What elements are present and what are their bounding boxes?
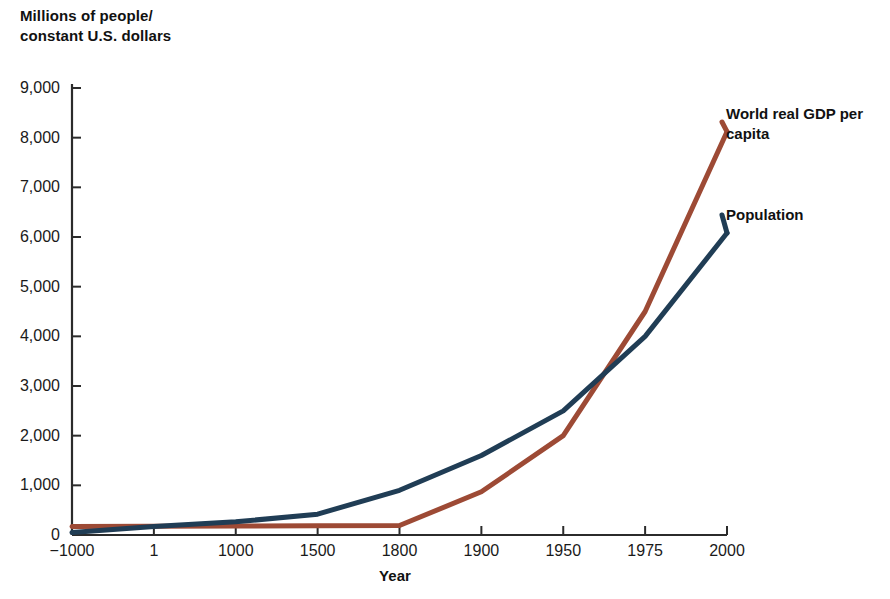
x-axis-tick-label: 1900 — [464, 542, 500, 560]
chart-container: Millions of people/ constant U.S. dollar… — [0, 0, 890, 599]
series-lines — [72, 122, 727, 533]
y-axis-tick-label: 5,000 — [0, 278, 60, 296]
y-axis-tick-label: 1,000 — [0, 476, 60, 494]
series-label-world-real-gdp-per-capita: World real GDP per capita — [726, 104, 886, 144]
y-axis-tick-label: 8,000 — [0, 129, 60, 147]
x-axis-title: Year — [0, 566, 790, 586]
x-axis-tick-label: 1950 — [545, 542, 581, 560]
y-axis-tick-label: 3,000 — [0, 377, 60, 395]
x-axis-tick-label: 1800 — [382, 542, 418, 560]
y-axis-tick-label: 2,000 — [0, 427, 60, 445]
y-axis-ticks — [72, 88, 81, 485]
series-line-population — [72, 233, 727, 532]
x-axis-tick-label: 2000 — [709, 542, 745, 560]
y-axis — [72, 84, 81, 535]
x-axis-tick-label: 1 — [149, 542, 158, 560]
y-axis-tick-label: 4,000 — [0, 327, 60, 345]
x-axis-tick-label: 1500 — [300, 542, 336, 560]
y-axis-tick-label: 7,000 — [0, 178, 60, 196]
series-label-population: Population — [726, 205, 886, 225]
x-axis-tick-label: −1000 — [50, 542, 95, 560]
y-axis-tick-label: 9,000 — [0, 79, 60, 97]
series-line-world-real-gdp-per-capita — [72, 132, 727, 527]
y-axis-tick-label: 6,000 — [0, 228, 60, 246]
x-axis-tick-label: 1975 — [627, 542, 663, 560]
chart-plot-area — [0, 0, 890, 599]
x-axis-tick-label: 1000 — [218, 542, 254, 560]
